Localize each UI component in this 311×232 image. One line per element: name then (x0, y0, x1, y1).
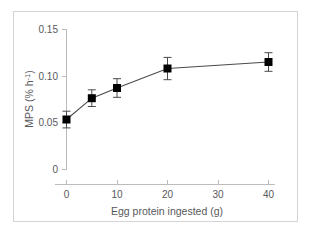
y-axis-title-main: MPS (% h (23, 80, 35, 127)
data-point-1 (88, 94, 96, 102)
y-tick-label-0.05: 0.05 (39, 117, 59, 128)
y-tick-labels: 0.15 0.10 0.05 0 (39, 24, 59, 175)
x-tick-marks (67, 180, 269, 185)
y-axis-title: MPS (% h-1) (23, 70, 36, 127)
x-tick-label-20: 20 (162, 189, 174, 200)
data-point-2 (113, 84, 121, 92)
data-point-4 (265, 58, 273, 66)
chart-canvas: 0.15 0.10 0.05 0 0 10 20 30 40 Egg prote… (14, 12, 299, 223)
y-tick-label-0: 0 (52, 164, 58, 175)
data-point-3 (164, 65, 172, 73)
y-tick-marks (62, 30, 67, 170)
figure-frame: 0.15 0.10 0.05 0 0 10 20 30 40 Egg prote… (13, 11, 298, 222)
data-point-0 (63, 116, 71, 124)
y-tick-label-0.15: 0.15 (39, 24, 59, 35)
x-tick-labels: 0 10 20 30 40 (64, 189, 275, 200)
y-tick-label-0.10: 0.10 (39, 71, 59, 82)
x-tick-label-10: 10 (111, 189, 123, 200)
y-axis-title-sup: -1 (23, 74, 32, 81)
y-axis-title-tail: ) (23, 70, 35, 74)
x-tick-label-0: 0 (64, 189, 70, 200)
svg-text:MPS (% h-1): MPS (% h-1) (23, 70, 36, 127)
x-axis-title: Egg protein ingested (g) (111, 205, 223, 217)
x-tick-label-30: 30 (212, 189, 224, 200)
data-point-markers (63, 58, 273, 124)
x-tick-label-40: 40 (263, 189, 275, 200)
